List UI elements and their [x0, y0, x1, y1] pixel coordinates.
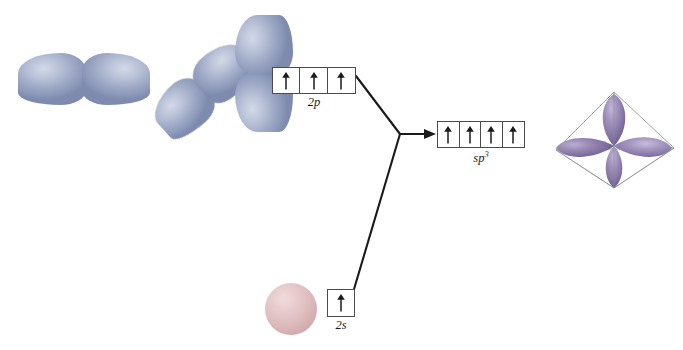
electron-up-arrow-icon [280, 71, 293, 90]
2s-cell-1[interactable] [328, 290, 354, 316]
sp3-cell-4[interactable] [503, 122, 524, 147]
electron-up-arrow-icon [507, 125, 520, 144]
sp3-hybrid-orbital-set [548, 88, 680, 196]
sp3-label-main: sp [473, 151, 484, 165]
sp3-orbital-boxes[interactable] [437, 121, 525, 148]
2p-cell-3[interactable] [328, 68, 355, 93]
p-z-lobe-top [235, 15, 293, 75]
line-2s-to-junction [352, 134, 400, 296]
2s-orbital-box[interactable] [327, 289, 355, 317]
p-x-lobe-left [18, 53, 86, 105]
arrowhead-icon [424, 129, 436, 139]
electron-up-arrow-icon [442, 125, 455, 144]
electron-up-arrow-icon [335, 71, 348, 90]
figure-canvas: 2p 2s [0, 0, 683, 350]
sp3-cell-3[interactable] [481, 122, 503, 147]
2s-atomic-orbital [265, 283, 317, 335]
p-x-orbital [14, 48, 154, 110]
2p-cell-2[interactable] [300, 68, 327, 93]
electron-up-arrow-icon [307, 71, 320, 90]
2p-orbital-boxes[interactable] [272, 67, 356, 94]
sp3-lobe-right [614, 137, 672, 157]
2p-label: 2p [308, 95, 321, 110]
sp3-label: sp3 [473, 149, 488, 166]
sp3-cell-1[interactable] [438, 122, 460, 147]
2s-label: 2s [335, 318, 346, 333]
sp3-label-superscript: 3 [484, 149, 488, 159]
line-2p-to-junction [356, 76, 400, 134]
2p-cell-1[interactable] [273, 68, 300, 93]
sp3-cell-2[interactable] [460, 122, 482, 147]
electron-up-arrow-icon [463, 125, 476, 144]
p-x-lobe-right [82, 53, 150, 105]
electron-up-arrow-icon [485, 125, 498, 144]
electron-up-arrow-icon [335, 294, 348, 313]
